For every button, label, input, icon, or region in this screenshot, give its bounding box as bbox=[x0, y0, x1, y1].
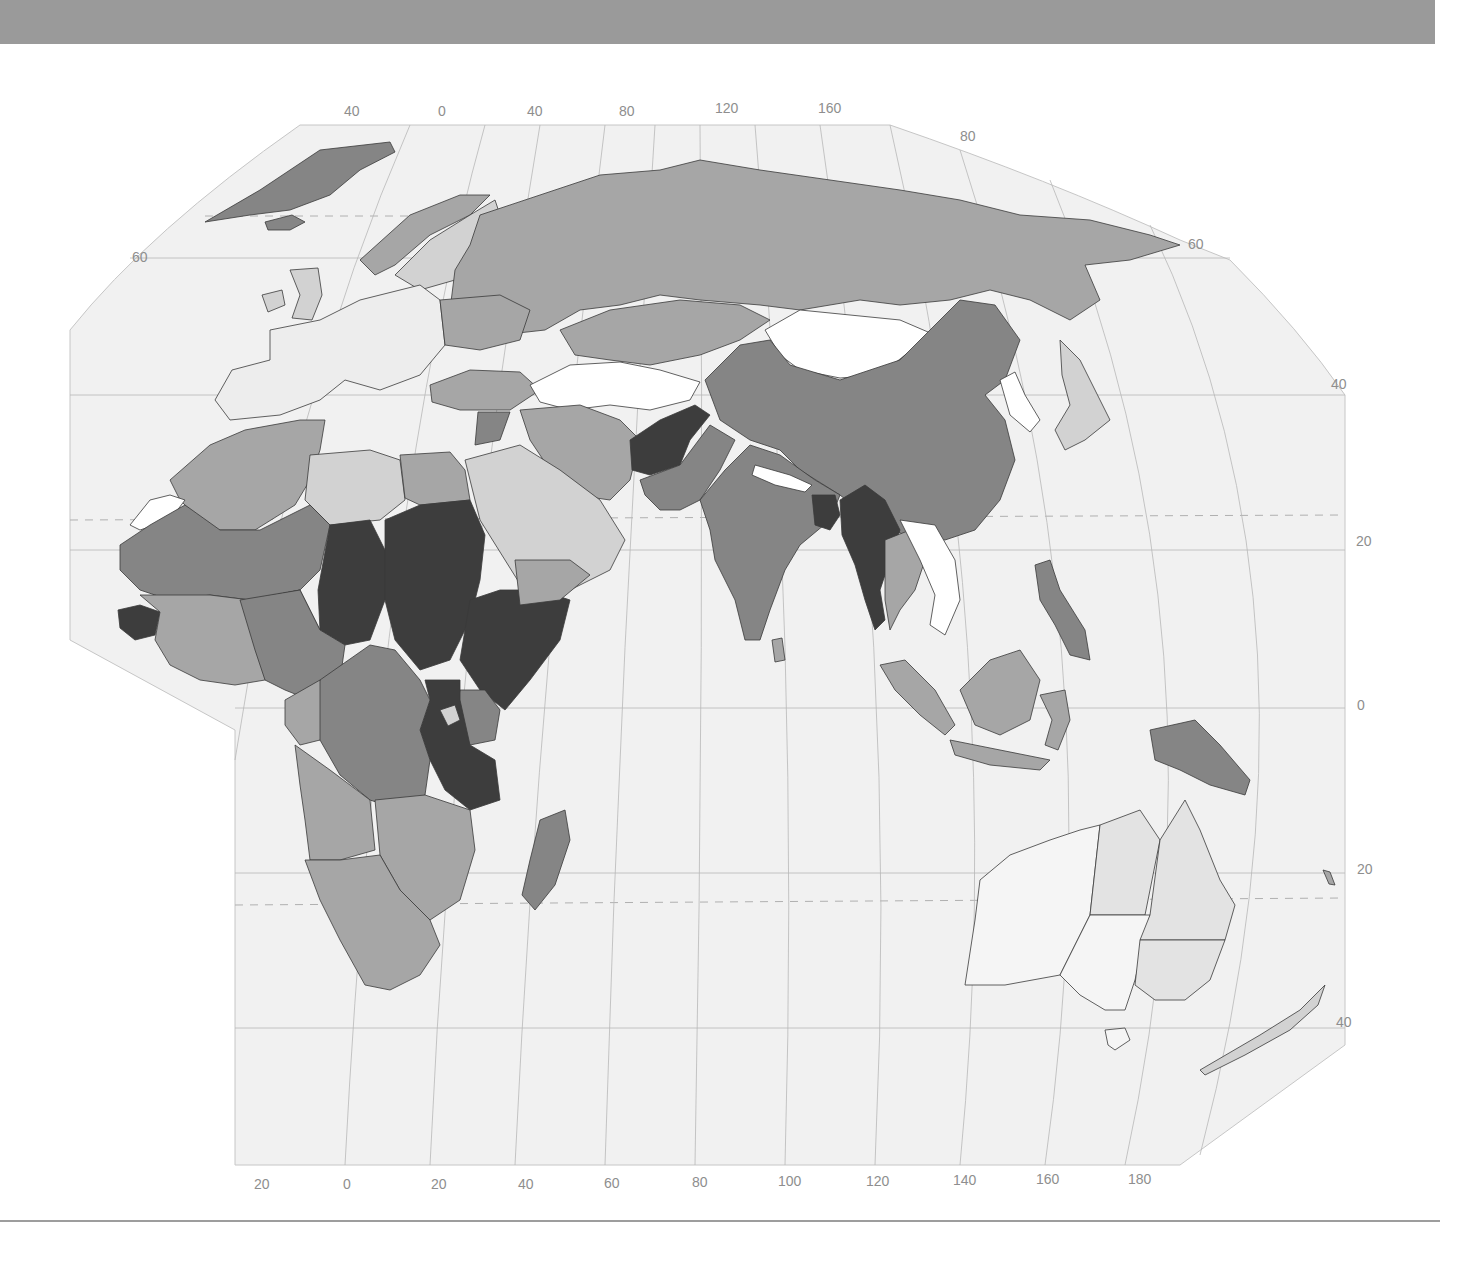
lon-label: 80 bbox=[619, 103, 635, 119]
lon-label: 0 bbox=[438, 103, 446, 119]
lat-label: 60 bbox=[132, 249, 148, 265]
region-chad bbox=[318, 520, 385, 645]
lat-label: 0 bbox=[1357, 697, 1365, 713]
lon-label: 160 bbox=[818, 100, 842, 116]
lon-label: 120 bbox=[715, 100, 739, 116]
lon-label: 20 bbox=[254, 1176, 270, 1192]
top-longitude-labels: 40 0 40 80 120 160 bbox=[344, 100, 842, 119]
lat-label: 80 bbox=[960, 128, 976, 144]
lon-label: 40 bbox=[518, 1176, 534, 1192]
lat-label: 20 bbox=[1357, 861, 1373, 877]
lat-label: 20 bbox=[1356, 533, 1372, 549]
lon-label: 40 bbox=[527, 103, 543, 119]
lat-label: 40 bbox=[1331, 376, 1347, 392]
lon-label: 80 bbox=[692, 1174, 708, 1190]
lat-label: 60 bbox=[1188, 236, 1204, 252]
lon-label: 60 bbox=[604, 1175, 620, 1191]
bottom-longitude-labels: 20 0 20 40 60 80 100 120 140 160 180 bbox=[254, 1171, 1152, 1192]
lon-label: 120 bbox=[866, 1173, 890, 1189]
lon-label: 40 bbox=[344, 103, 360, 119]
lon-label: 180 bbox=[1128, 1171, 1152, 1187]
lon-label: 20 bbox=[431, 1176, 447, 1192]
lat-label: 40 bbox=[1336, 1014, 1352, 1030]
left-latitude-labels: 60 bbox=[132, 249, 148, 265]
lon-label: 100 bbox=[778, 1173, 802, 1189]
world-map: 40 0 40 80 120 160 20 0 20 40 60 80 100 … bbox=[0, 0, 1467, 1262]
lon-label: 0 bbox=[343, 1176, 351, 1192]
lon-label: 160 bbox=[1036, 1171, 1060, 1187]
lon-label: 140 bbox=[953, 1172, 977, 1188]
bottom-divider bbox=[0, 1220, 1440, 1222]
